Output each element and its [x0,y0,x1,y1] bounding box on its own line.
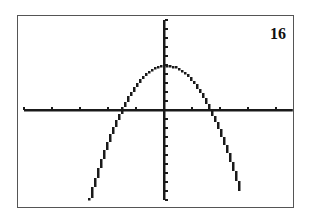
curve-segment [121,107,124,114]
curve-segment [154,67,157,70]
y-tick [165,127,168,129]
y-tick [165,199,168,201]
curve-segment [139,79,142,83]
curve-segment [214,116,217,122]
curve-segment [229,153,232,162]
curve-segment [97,168,100,178]
curve-segment [205,98,208,104]
y-tick [165,46,168,48]
y-tick [165,55,168,57]
curve-segment [178,68,181,71]
y-tick [165,91,168,93]
curve-segment [148,71,151,74]
y-tick [165,19,168,21]
curve-segment [109,134,112,142]
curve-segment [172,66,175,69]
curve-segment [223,137,226,145]
curve-segment [211,109,214,116]
x-tick [107,107,109,110]
curve-segment [127,96,130,102]
x-tick [135,107,137,110]
y-tick [165,73,168,75]
curve-segment [157,66,160,69]
curve-segment [133,87,136,92]
curve-segment [193,81,196,84]
curve-segment [181,70,184,73]
graph-plot [0,0,310,217]
curve-segment [142,76,145,79]
y-tick [165,28,168,30]
curve-segment [163,65,166,68]
curve-segment [112,127,115,134]
curve-segment [235,171,238,181]
x-tick [191,107,193,110]
y-tick [165,82,168,84]
curve-segment [94,178,97,187]
y-tick [165,190,168,192]
y-tick [165,172,168,174]
curve-segment [175,66,178,69]
curve-segment [136,83,139,87]
x-tick [275,107,277,110]
curve-segment [196,84,199,89]
curve-segment [130,92,133,96]
curve-segment [91,187,94,198]
curve-segment [169,65,172,68]
curve-segment [199,89,202,93]
x-tick [219,107,221,110]
x-tick [247,107,249,110]
x-tick [51,107,53,110]
y-tick [165,181,168,183]
y-tick [165,136,168,138]
curve-segment [220,129,223,137]
curve-segment [88,198,91,201]
axes [23,19,293,201]
curve-segment [115,120,118,127]
x-tick [79,107,81,110]
curve-segment [151,69,154,72]
y-tick [165,145,168,147]
curve-segment [145,73,148,76]
curve-segment [187,74,190,77]
curve-segment [184,72,187,75]
y-tick [165,37,168,39]
curve-segment [190,77,193,81]
curve-segment [217,122,220,129]
curve-segment [208,104,211,109]
curve-segment [118,114,121,120]
curve-segment [202,93,205,98]
x-tick [23,107,25,110]
x-axis [24,109,293,112]
curve-segment [106,142,109,150]
curve-segment [166,65,169,68]
curve-segment [232,162,235,171]
curve-segment [103,150,106,159]
y-tick [165,154,168,156]
curve-segment [124,102,127,107]
y-tick [165,118,168,120]
curve-segment [160,65,163,68]
curve-segment [238,181,241,191]
y-tick [165,163,168,165]
curve-segment [226,145,229,153]
y-tick [165,100,168,102]
curve-segment [100,159,103,168]
